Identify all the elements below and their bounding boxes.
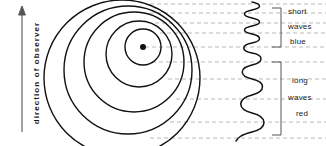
short-waves-label-line3: blue bbox=[290, 38, 306, 46]
long-waves-label-line1: long bbox=[292, 77, 308, 85]
moving-source-dot bbox=[140, 44, 146, 50]
long-waves-label-line3: red bbox=[296, 110, 308, 118]
arrow-head-icon bbox=[19, 6, 26, 15]
figure-canvas bbox=[0, 0, 326, 146]
wavefront-circle-4 bbox=[64, 6, 192, 134]
direction-arrow bbox=[19, 6, 26, 132]
short-waves-bracket bbox=[272, 8, 281, 47]
wavefront-circles bbox=[44, 0, 200, 146]
long-waves-label-line2: waves bbox=[288, 94, 312, 102]
direction-of-observer-label: direction of observer bbox=[30, 0, 44, 146]
doppler-effect-figure: direction of observer short waves blue l… bbox=[0, 0, 326, 146]
wavefront-circle-2 bbox=[106, 21, 172, 87]
short-waves-label-line1: short bbox=[288, 8, 307, 16]
short-waves-label-line2: waves bbox=[288, 23, 312, 31]
label-brackets bbox=[272, 8, 281, 135]
wavefront-circle-5 bbox=[44, 0, 200, 146]
